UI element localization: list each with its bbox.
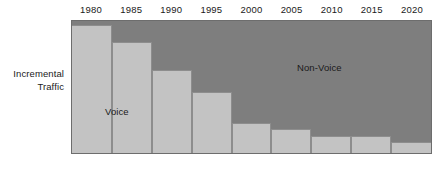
bar-column-1980 bbox=[72, 21, 112, 153]
bar-column-1995 bbox=[192, 21, 232, 153]
bar-column-1985 bbox=[112, 21, 152, 153]
y-axis-label: Incremental Traffic bbox=[0, 68, 64, 93]
series-label-non-voice: Non-Voice bbox=[297, 62, 342, 74]
voice-bar bbox=[192, 92, 232, 153]
voice-bar-group bbox=[72, 21, 431, 153]
voice-bar bbox=[271, 129, 311, 153]
x-tick-1985: 1985 bbox=[111, 3, 151, 18]
bar-column-2020 bbox=[391, 21, 431, 153]
bar-column-1990 bbox=[152, 21, 192, 153]
x-tick-2015: 2015 bbox=[352, 3, 392, 18]
y-axis-label-line-1: Incremental bbox=[0, 68, 64, 81]
y-axis-label-line-2: Traffic bbox=[0, 81, 64, 94]
x-tick-1995: 1995 bbox=[191, 3, 231, 18]
voice-bar bbox=[351, 136, 391, 153]
bar-column-2000 bbox=[232, 21, 272, 153]
voice-bar bbox=[311, 136, 351, 153]
incremental-traffic-chart: Incremental Traffic 1980 1985 1990 1995 … bbox=[0, 0, 441, 172]
x-tick-1990: 1990 bbox=[151, 3, 191, 18]
series-label-voice: Voice bbox=[105, 106, 129, 118]
x-axis-tick-labels: 1980 1985 1990 1995 2000 2005 2010 2015 … bbox=[71, 3, 432, 18]
voice-bar bbox=[391, 142, 431, 153]
x-tick-1980: 1980 bbox=[71, 3, 111, 18]
x-tick-2010: 2010 bbox=[312, 3, 352, 18]
x-axis-baseline bbox=[71, 153, 432, 154]
voice-bar bbox=[72, 25, 112, 153]
bar-column-2015 bbox=[351, 21, 391, 153]
bar-column-2010 bbox=[311, 21, 351, 153]
voice-bar bbox=[152, 70, 192, 153]
x-tick-2020: 2020 bbox=[392, 3, 432, 18]
bar-column-2005 bbox=[271, 21, 311, 153]
x-tick-2005: 2005 bbox=[272, 3, 312, 18]
voice-bar bbox=[232, 123, 272, 153]
x-tick-2000: 2000 bbox=[231, 3, 271, 18]
plot-area: Voice Non-Voice bbox=[71, 20, 432, 154]
voice-bar bbox=[112, 42, 152, 153]
